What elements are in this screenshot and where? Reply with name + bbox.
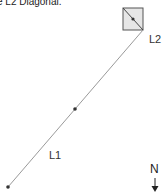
l2-label: L2 <box>149 33 161 45</box>
start-point <box>6 185 10 189</box>
l2-center-point <box>131 17 134 20</box>
north-arrow-head <box>152 186 159 192</box>
diagram-canvas <box>0 0 168 195</box>
l1-label: L1 <box>49 149 61 161</box>
midpoint <box>73 107 77 111</box>
north-label: N <box>150 162 159 176</box>
